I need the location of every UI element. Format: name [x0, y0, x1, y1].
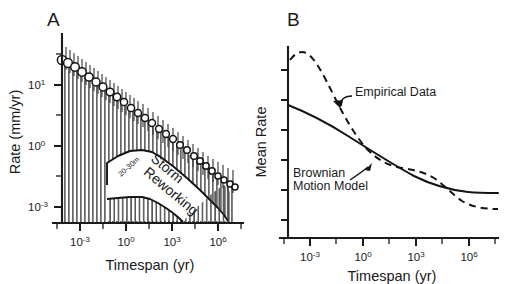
panel-a-y-axis-title: Rate (mm/yr): [7, 90, 23, 175]
empirical-data-label: Empirical Data: [355, 85, 436, 99]
figure-canvas: A: [0, 0, 505, 284]
brownian-label-line1: Brownian: [293, 166, 345, 180]
panel-b-x-axis-title: Timespan (yr): [348, 268, 437, 284]
panel-b-y-axis-title: Mean Rate: [253, 107, 269, 178]
figure-root: A: [0, 0, 505, 284]
panel-a-letter: A: [47, 9, 60, 30]
brownian-label-line2: Motion Model: [293, 179, 368, 193]
panel-b-letter: B: [287, 9, 300, 30]
panel-a-x-axis-title: Timespan (yr): [106, 257, 195, 273]
